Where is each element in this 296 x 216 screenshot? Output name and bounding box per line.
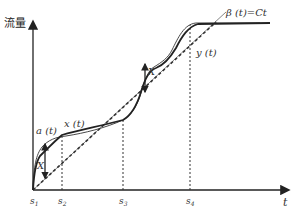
tick-s1: s1	[30, 196, 38, 207]
axes	[33, 22, 288, 190]
tick-s4: s4	[186, 196, 195, 207]
tick-s3: s3	[119, 196, 128, 207]
x-axis-label: t	[283, 196, 288, 209]
beta-label: β (t)=Ct	[225, 7, 268, 18]
flow-diagram: 流量 t a (t) x (t) y (t) β (t)=Ct X X s1 s…	[0, 0, 296, 216]
y-axis-label: 流量	[4, 16, 26, 30]
a-curve-label: a (t)	[36, 125, 57, 136]
a-curve	[33, 23, 260, 190]
x-curve-label: x (t)	[64, 118, 85, 129]
gap-label-2: X	[147, 66, 156, 77]
tick-guides	[62, 25, 190, 190]
y-curve-label: y (t)	[195, 47, 217, 58]
x-curve	[33, 23, 270, 190]
tick-s2: s2	[58, 196, 67, 207]
tick-labels: s1 s2 s3 s4	[30, 196, 195, 207]
gap-label-1: X	[36, 160, 45, 171]
